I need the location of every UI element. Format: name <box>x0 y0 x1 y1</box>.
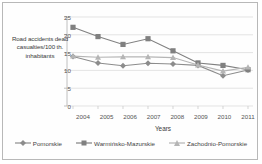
legend-label: Warmińsko-Mazurskie <box>94 140 155 147</box>
diamond-marker-icon <box>145 60 151 66</box>
square-marker-icon <box>70 25 75 30</box>
diamond-marker-icon <box>120 63 126 69</box>
chart-frame: Road accidents dead casualties/100 th. i… <box>2 2 258 160</box>
legend-item-pomorskie[interactable]: Pomorskie <box>15 139 62 147</box>
y-tick-label: 0 <box>57 103 71 110</box>
square-marker-icon <box>76 139 92 147</box>
diamond-marker-icon <box>170 61 176 67</box>
diamond-marker-icon <box>15 139 31 147</box>
x-tick-label: 2005 <box>94 113 120 120</box>
x-tick-label: 2011 <box>235 113 261 120</box>
chart-legend: Pomorskie Warmińsko-Mazurskie Zachodnio-… <box>3 139 259 147</box>
x-tick-label: 2008 <box>164 113 190 120</box>
diamond-marker-icon <box>95 60 101 66</box>
triangle-marker-icon <box>169 139 185 147</box>
x-tick-label: 2009 <box>188 113 214 120</box>
square-marker-icon <box>120 42 125 47</box>
legend-item-zachodnio-pomorskie[interactable]: Zachodnio-Pomorskie <box>169 139 247 147</box>
square-marker-icon <box>220 63 225 68</box>
legend-item-warminsko-mazurskie[interactable]: Warmińsko-Mazurskie <box>76 139 155 147</box>
y-tick-label: 10 <box>57 67 71 74</box>
square-marker-icon <box>145 36 150 41</box>
y-tick-label: 15 <box>57 50 71 57</box>
y-tick-label: 5 <box>57 85 71 92</box>
y-tick-label: 25 <box>57 14 71 21</box>
triangle-marker-icon <box>245 64 251 69</box>
legend-label: Zachodnio-Pomorskie <box>187 140 247 147</box>
square-marker-icon <box>170 48 175 53</box>
plot-svg <box>3 3 259 161</box>
x-axis-label: Years <box>73 125 253 132</box>
y-tick-label: 20 <box>57 32 71 39</box>
diamond-marker-icon <box>220 73 226 79</box>
x-tick-label: 2007 <box>141 113 167 120</box>
chart-area: Road accidents dead casualties/100 th. i… <box>3 3 259 161</box>
gridlines <box>67 17 253 106</box>
x-tick-label: 2004 <box>70 113 96 120</box>
x-tick-label: 2006 <box>117 113 143 120</box>
x-tick-label: 2010 <box>211 113 237 120</box>
square-marker-icon <box>95 34 100 39</box>
legend-label: Pomorskie <box>33 140 62 147</box>
